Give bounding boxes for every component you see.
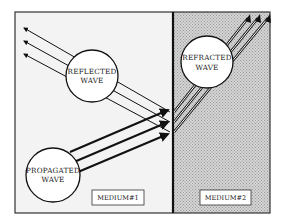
svg-text:WAVE: WAVE xyxy=(41,175,64,184)
svg-text:WAVE: WAVE xyxy=(195,63,218,72)
svg-text:WAVE: WAVE xyxy=(80,76,103,85)
svg-text:REFLECTED: REFLECTED xyxy=(68,67,117,76)
svg-text:MEDIUM#1: MEDIUM#1 xyxy=(97,194,139,202)
reflected-wave-bubble: REFLECTED WAVE xyxy=(66,50,118,102)
wave-diagram: REFLECTED WAVE REFRACTED WAVE PROPAGATED… xyxy=(0,0,284,224)
refracted-wave-bubble: REFRACTED WAVE xyxy=(181,36,233,88)
svg-text:PROPAGATED: PROPAGATED xyxy=(26,166,80,175)
medium-1-label: MEDIUM#1 xyxy=(92,190,144,205)
medium-2-label: MEDIUM#2 xyxy=(200,190,251,205)
svg-text:MEDIUM#2: MEDIUM#2 xyxy=(205,194,247,202)
svg-text:REFRACTED: REFRACTED xyxy=(182,53,231,62)
propagated-wave-bubble: PROPAGATED WAVE xyxy=(26,148,80,202)
